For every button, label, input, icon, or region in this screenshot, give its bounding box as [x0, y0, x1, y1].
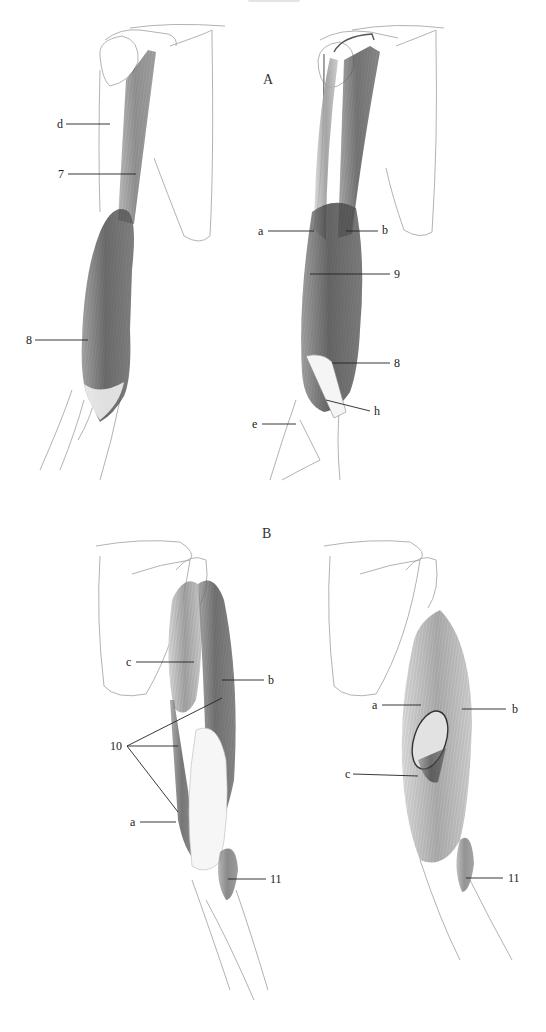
- muscle-anconeus-11: [456, 838, 474, 892]
- label-7: 7: [58, 168, 64, 180]
- label-a: a: [372, 699, 377, 711]
- label-h: h: [374, 405, 380, 417]
- label-8: 8: [394, 357, 400, 369]
- label-10: 10: [110, 740, 122, 752]
- label-d: d: [57, 118, 63, 130]
- muscle-anconeus-11: [218, 849, 238, 900]
- label-11: 11: [508, 872, 520, 884]
- label-c: c: [345, 768, 350, 780]
- label-b: b: [268, 674, 274, 686]
- label-a: a: [258, 225, 263, 237]
- label-b: b: [382, 224, 388, 236]
- label-11: 11: [270, 873, 282, 885]
- triceps-tendon: [189, 728, 227, 870]
- label-a: a: [130, 816, 135, 828]
- label-9: 9: [394, 268, 400, 280]
- label-8: 8: [26, 334, 32, 346]
- label-c: c: [126, 656, 131, 668]
- label-b: b: [512, 703, 518, 715]
- label-e: e: [252, 418, 257, 430]
